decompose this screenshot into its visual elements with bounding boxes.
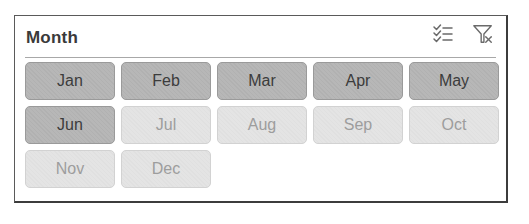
slicer-item-may[interactable]: May — [409, 62, 499, 100]
slicer-item-label: Nov — [56, 160, 84, 178]
multi-select-icon — [432, 23, 454, 45]
slicer-item-label: Jan — [57, 72, 83, 90]
slicer-items-grid: Jan Feb Mar Apr May Jun Jul Aug Sep Oct … — [25, 62, 499, 188]
slicer-item-sep[interactable]: Sep — [313, 106, 403, 144]
slicer-item-jan[interactable]: Jan — [25, 62, 115, 100]
slicer-item-dec[interactable]: Dec — [121, 150, 211, 188]
slicer-item-jun[interactable]: Jun — [25, 106, 115, 144]
slicer-item-mar[interactable]: Mar — [217, 62, 307, 100]
slicer-item-jul[interactable]: Jul — [121, 106, 211, 144]
slicer-item-label: Mar — [248, 72, 276, 90]
slicer-item-oct[interactable]: Oct — [409, 106, 499, 144]
slicer-item-label: May — [439, 72, 469, 90]
slicer-item-aug[interactable]: Aug — [217, 106, 307, 144]
slicer-item-label: Sep — [344, 116, 372, 134]
clear-filter-button[interactable] — [472, 22, 494, 46]
slicer-item-apr[interactable]: Apr — [313, 62, 403, 100]
slicer-item-label: Aug — [248, 116, 276, 134]
slicer-item-feb[interactable]: Feb — [121, 62, 211, 100]
slicer-header: Month — [25, 16, 496, 58]
slicer-item-nov[interactable]: Nov — [25, 150, 115, 188]
slicer-item-label: Jul — [156, 116, 176, 134]
slicer-title: Month — [26, 28, 78, 48]
slicer-item-label: Oct — [442, 116, 467, 134]
slicer-item-label: Jun — [57, 116, 83, 134]
slicer-item-label: Feb — [152, 72, 180, 90]
slicer-item-label: Dec — [152, 160, 180, 178]
slicer-header-icons — [432, 22, 494, 46]
slicer-item-label: Apr — [346, 72, 371, 90]
clear-filter-icon — [472, 22, 494, 46]
multi-select-button[interactable] — [432, 22, 454, 46]
month-slicer: Month — [14, 15, 508, 203]
